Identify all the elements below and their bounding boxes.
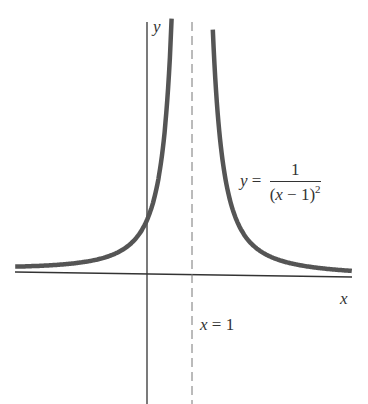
graph: y x x = 1 y = 1 (x − 1)2 [0, 0, 368, 404]
equation-label: y = 1 (x − 1)2 [240, 160, 321, 205]
curve-right-branch [213, 30, 352, 271]
asymptote-label: x = 1 [200, 316, 234, 333]
y-axis-label: y [153, 18, 161, 35]
equation-denominator: (x − 1)2 [270, 182, 321, 205]
x-axis-label: x [340, 290, 348, 307]
equation-exponent: 2 [315, 183, 321, 195]
x-axis [15, 272, 352, 277]
equation-lhs: y [240, 171, 248, 190]
equation-numerator: 1 [270, 160, 321, 182]
curve-left-branch [15, 19, 171, 267]
equation-fraction: 1 (x − 1)2 [270, 160, 321, 205]
